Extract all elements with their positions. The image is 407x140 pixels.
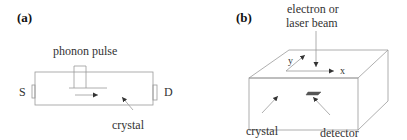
drain-label: D bbox=[164, 85, 173, 99]
crystal-top-face bbox=[249, 50, 388, 78]
beam-label-line1: electron or bbox=[287, 2, 339, 16]
crystal-front-face bbox=[249, 78, 358, 130]
panel-b-label: (b) bbox=[236, 10, 252, 25]
crystal-side-face bbox=[358, 50, 388, 130]
crystal-pointer-arrow-b bbox=[262, 96, 278, 113]
y-axis-label: y bbox=[288, 55, 293, 66]
panel-a: (a) phonon pulse S D crystal bbox=[17, 10, 173, 132]
crystal-bar bbox=[35, 72, 153, 105]
phonon-pulse-shape bbox=[74, 66, 86, 88]
crystal-pointer-arrow bbox=[122, 97, 133, 110]
detector-pointer-arrow bbox=[313, 97, 330, 115]
source-label: S bbox=[19, 85, 26, 99]
panel-a-label: (a) bbox=[17, 10, 32, 25]
x-axis-label: x bbox=[340, 65, 345, 76]
panel-b: (b) electron or laser beam x y crystal d… bbox=[236, 2, 388, 140]
detector-label: detector bbox=[320, 126, 359, 140]
source-contact bbox=[32, 85, 35, 98]
diagram-canvas: (a) phonon pulse S D crystal (b) electro… bbox=[0, 0, 407, 140]
beam-label-line2: laser beam bbox=[286, 16, 338, 30]
drain-contact bbox=[153, 85, 157, 100]
crystal-label-a: crystal bbox=[112, 118, 145, 132]
crystal-label-b: crystal bbox=[246, 124, 279, 138]
detector-icon bbox=[306, 92, 321, 95]
phonon-pulse-label: phonon pulse bbox=[53, 44, 117, 58]
